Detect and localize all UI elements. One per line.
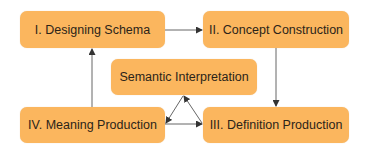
node-concept-construction: II. Concept Construction — [203, 11, 349, 48]
node-meaning-production: IV. Meaning Production — [20, 107, 165, 143]
node-label: IV. Meaning Production — [28, 118, 157, 132]
node-label: III. Definition Production — [210, 118, 343, 132]
node-designing-schema: I. Designing Schema — [20, 11, 165, 48]
node-definition-production: III. Definition Production — [203, 107, 349, 143]
edge-definition-to-semantic — [184, 96, 202, 123]
node-label: II. Concept Construction — [209, 23, 343, 37]
edge-semantic-to-meaning — [166, 96, 183, 123]
node-label: I. Designing Schema — [35, 23, 150, 37]
node-semantic-interpretation: Semantic Interpretation — [111, 59, 257, 95]
node-label: Semantic Interpretation — [119, 70, 248, 84]
